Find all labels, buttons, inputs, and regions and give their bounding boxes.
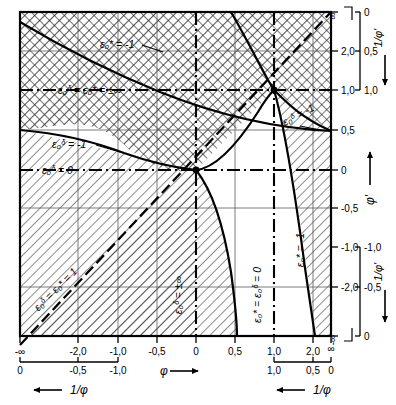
y-tick-label: -∞ bbox=[327, 335, 338, 345]
node-center bbox=[271, 87, 278, 94]
label-eps-star-minus1-right: ε₀* = -1 bbox=[294, 233, 306, 267]
x-recip-right-label: 0,5 bbox=[306, 365, 320, 376]
y-tick-label: ∞ bbox=[327, 12, 338, 19]
y-recip-bottom-title: 1/φ' bbox=[372, 262, 384, 281]
x-recip-right-title: 1/φ bbox=[313, 383, 331, 397]
y-tick-label: 1,0 bbox=[341, 85, 355, 96]
y-recip-bottom-label: -0,5 bbox=[364, 282, 382, 293]
label-eps-delta-zero: ε₀ᵟ = 0 bbox=[42, 164, 73, 176]
node-origin bbox=[193, 167, 200, 174]
x-recip-left-title: 1/φ bbox=[70, 383, 88, 397]
y-tick-label: -0,5 bbox=[341, 203, 359, 214]
y-recip-bottom-label: 0 bbox=[364, 331, 370, 342]
ylabel: φ' bbox=[363, 194, 377, 205]
y-recip-top-title: 1/φ' bbox=[372, 28, 384, 47]
y-tick-label: 0 bbox=[341, 165, 347, 176]
y-tick-label: 0,5 bbox=[341, 125, 355, 136]
x-tick-label: 0 bbox=[193, 346, 199, 357]
x-recip-right-label: 0 bbox=[328, 365, 334, 376]
label-eps-star-eq-delta-zero: ε₀* = ε₀ᵟ = 0 bbox=[251, 267, 263, 323]
chart-root: -∞ -2,0 -1,0 -0,5 0 0,5 1,0 2,0 ∞ φ 0 -0… bbox=[0, 0, 396, 405]
x-recip-left-label: -1,0 bbox=[109, 365, 127, 376]
x-recip-left-label: -0,5 bbox=[69, 365, 87, 376]
x-tick-label: -∞ bbox=[15, 346, 25, 357]
y-recip-top-label: 1,0 bbox=[364, 85, 378, 96]
label-eps-delta-minus1-left: ε₀ᵟ = -1 bbox=[52, 138, 86, 150]
x-tick-label: -0,5 bbox=[148, 346, 166, 357]
x-tick-label: 0,5 bbox=[228, 346, 242, 357]
label-eps-delta-eq-star-inf: ε₀ᵟ = ε₀* = ±∞ bbox=[58, 84, 121, 96]
stability-chart: -∞ -2,0 -1,0 -0,5 0 0,5 1,0 2,0 ∞ φ 0 -0… bbox=[0, 0, 396, 405]
xlabel: φ bbox=[160, 364, 168, 378]
y-recip-top-label: 0 bbox=[364, 7, 370, 18]
y-tick-label: 2,0 bbox=[341, 46, 355, 57]
label-eps-delta-pm-inf: ε₀ᵟ = ±∞ bbox=[172, 276, 184, 314]
x-tick-label: 1,0 bbox=[267, 346, 281, 357]
x-recip-right-label: 1,0 bbox=[267, 365, 281, 376]
y-recip-bottom-label: -1,0 bbox=[364, 242, 382, 253]
label-eps-star-minus1-top: ε₀* = -1 bbox=[100, 38, 134, 50]
x-tick-label: 2,0 bbox=[306, 346, 320, 357]
x-recip-left-label: 0 bbox=[17, 365, 23, 376]
x-tick-label: -2,0 bbox=[69, 346, 87, 357]
x-tick-label: -1,0 bbox=[109, 346, 127, 357]
